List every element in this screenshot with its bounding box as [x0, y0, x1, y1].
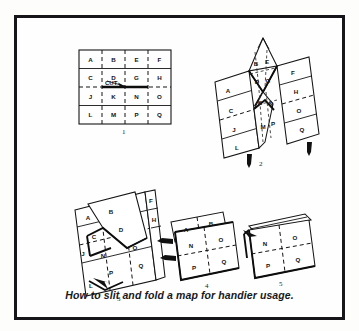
- cell-label: E: [265, 58, 269, 65]
- cell-label: Q: [139, 262, 144, 269]
- cell-label: G: [134, 74, 139, 81]
- cell-label: K: [258, 99, 263, 106]
- cell-label: P: [266, 262, 270, 269]
- cell-label: J: [81, 250, 85, 257]
- cell-label: L: [235, 144, 239, 151]
- cell-label: G: [266, 77, 271, 84]
- cell-label: C: [92, 233, 97, 240]
- push-arrow-down-right: [307, 142, 312, 156]
- cell-label: Q: [296, 256, 301, 263]
- cell-label: O: [297, 107, 302, 114]
- cell-label: N: [134, 93, 139, 100]
- cell-label: H: [157, 74, 162, 81]
- figure-step-2: A B E F C D G H J K M N O L P Q: [203, 30, 333, 170]
- cell-label: D: [119, 226, 124, 233]
- cell-label: C: [229, 107, 234, 114]
- cell-label: C: [88, 74, 93, 81]
- cell-label: B: [111, 56, 116, 63]
- cell-label: L: [89, 282, 93, 289]
- scanned-page: A B E F C D G H CUT J K N O L M P Q: [0, 0, 359, 331]
- push-arrow-left-upper: [157, 238, 173, 244]
- cell-label: O: [133, 244, 138, 251]
- cell-label: N: [263, 240, 268, 247]
- cell-label: F: [158, 56, 162, 63]
- figure-2-svg: A B E F C D G H J K M N O L P Q: [203, 30, 333, 170]
- cell-label: D: [255, 78, 260, 85]
- cell-label: P: [192, 264, 196, 271]
- figure-step-1: A B E F C D G H CUT J K N O L M P Q: [65, 46, 185, 158]
- figure-caption: How to slit and fold a map for handier u…: [17, 289, 342, 301]
- cell-label: M: [111, 111, 116, 118]
- cell-label: B: [209, 220, 214, 227]
- cell-label: L: [89, 111, 93, 118]
- cell-label: A: [88, 56, 93, 63]
- figure-1-svg: A B E F C D G H CUT J K N O L M P Q: [65, 46, 185, 158]
- cell-label: E: [134, 56, 138, 63]
- figure-number-2: 2: [259, 160, 263, 168]
- cell-label: N: [269, 100, 274, 107]
- cell-label: O: [157, 93, 162, 100]
- cell-label: F: [291, 69, 295, 76]
- cell-label: M: [260, 123, 265, 130]
- cell-label: O: [219, 236, 224, 243]
- push-arrow-left-lower: [160, 255, 176, 261]
- cell-label: J: [232, 126, 236, 133]
- figure-step-5: N O P Q 5: [231, 206, 331, 301]
- cell-label: Q: [300, 126, 305, 133]
- cell-label: F: [149, 197, 153, 204]
- cell-label: J: [89, 93, 93, 100]
- cell-label: O: [293, 234, 298, 241]
- cell-label: N: [101, 252, 106, 259]
- cell-label: A: [184, 226, 189, 233]
- cell-label: H: [294, 88, 299, 95]
- cell-label: K: [111, 93, 116, 100]
- cell-label: N: [189, 242, 194, 249]
- cell-label: P: [134, 111, 138, 118]
- cell-label: Q: [157, 111, 162, 118]
- cell-label: B: [254, 60, 259, 67]
- cell-label: P: [271, 120, 275, 127]
- cell-label: P: [109, 269, 113, 276]
- cell-label: A: [226, 87, 231, 94]
- cell-label: Q: [222, 258, 227, 265]
- figure-number-1: 1: [122, 128, 126, 136]
- cell-label: A: [86, 214, 91, 221]
- cut-label: CUT: [105, 80, 118, 86]
- cell-label: B: [109, 208, 114, 215]
- push-arrow-down-left: [247, 154, 252, 168]
- figure-number-5: 5: [279, 280, 283, 288]
- illustration-frame: A B E F C D G H CUT J K N O L M P Q: [14, 15, 345, 320]
